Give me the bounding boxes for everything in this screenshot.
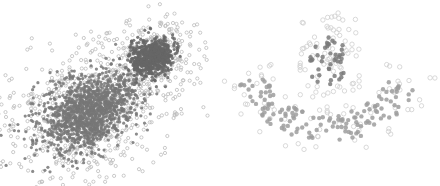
cluster-point: [119, 79, 122, 82]
noise-point: [164, 15, 167, 18]
noise-point: [53, 148, 56, 151]
cluster-point: [87, 125, 90, 128]
cluster-point: [98, 119, 101, 122]
cluster-point: [109, 80, 112, 83]
cluster-point: [44, 109, 47, 112]
cluster-point: [93, 103, 96, 106]
cluster-point: [110, 63, 113, 66]
cluster-point: [134, 68, 137, 71]
cluster-point: [70, 143, 73, 146]
cluster-point: [31, 102, 34, 105]
cluster-point: [136, 72, 139, 75]
cluster-point: [149, 45, 152, 48]
noise-point: [89, 30, 92, 33]
noise-point: [80, 59, 83, 62]
cluster-point: [62, 123, 65, 126]
cluster-point: [339, 71, 343, 75]
noise-point: [321, 93, 325, 97]
noise-point: [353, 17, 357, 21]
cluster-point: [359, 114, 363, 118]
cluster-point: [387, 80, 391, 84]
cluster-point: [310, 75, 314, 79]
noise-point: [9, 135, 12, 138]
noise-point: [357, 47, 361, 51]
cluster-point: [48, 141, 51, 144]
noise-point: [299, 52, 303, 56]
cluster-point: [107, 100, 110, 103]
cluster-point: [90, 146, 93, 149]
cluster-point: [50, 121, 53, 124]
noise-point: [175, 88, 178, 91]
cluster-point: [76, 167, 79, 170]
cluster-point: [87, 114, 90, 117]
cluster-point: [339, 125, 343, 129]
cluster-point: [64, 111, 67, 114]
cluster-point: [334, 56, 338, 60]
cluster-point: [349, 109, 353, 113]
cluster-point: [123, 78, 126, 81]
cluster-point: [84, 75, 87, 78]
cluster-point: [89, 59, 92, 62]
cluster-point: [349, 131, 353, 135]
cluster-point: [154, 37, 157, 40]
cluster-point: [100, 121, 103, 124]
cluster-point: [66, 93, 69, 96]
noise-point: [141, 145, 144, 148]
noise-point: [239, 112, 243, 116]
noise-point: [314, 90, 318, 94]
cluster-point: [271, 112, 275, 116]
cluster-point: [161, 49, 164, 52]
cluster-point: [71, 77, 74, 80]
noise-point: [165, 112, 168, 115]
cluster-point: [264, 90, 268, 94]
noise-point: [131, 157, 134, 160]
cluster-point: [140, 52, 143, 55]
noise-point: [77, 46, 80, 49]
noise-point: [86, 168, 89, 171]
noise-point: [272, 108, 276, 112]
cluster-point: [317, 116, 321, 120]
cluster-point: [35, 148, 38, 151]
cluster-point: [162, 56, 165, 59]
cluster-point: [164, 65, 167, 68]
cluster-point: [91, 101, 94, 104]
noise-point: [298, 93, 302, 97]
noise-point: [188, 79, 191, 82]
cluster-point: [340, 43, 344, 47]
cluster-point: [327, 42, 331, 46]
cluster-point: [129, 60, 132, 63]
cluster-point: [30, 119, 33, 122]
cluster-point: [68, 100, 71, 103]
cluster-point: [140, 73, 143, 76]
cluster-point: [131, 102, 134, 105]
noise-point: [124, 140, 127, 143]
noise-point: [180, 50, 183, 53]
cluster-point: [119, 111, 122, 114]
cluster-point: [115, 105, 118, 108]
cluster-point: [294, 130, 298, 134]
cluster-point: [291, 114, 295, 118]
cluster-point: [55, 147, 58, 150]
noise-point: [196, 77, 199, 80]
cluster-point: [109, 85, 112, 88]
cluster-point: [73, 110, 76, 113]
cluster-point: [146, 56, 149, 59]
cluster-point: [75, 151, 78, 154]
cluster-point: [104, 57, 107, 60]
cluster-point: [158, 46, 161, 49]
noise-point: [271, 77, 275, 81]
cluster-point: [71, 165, 74, 168]
cluster-point: [79, 151, 82, 154]
cluster-point: [51, 134, 54, 137]
cluster-point: [280, 108, 284, 112]
noise-point: [163, 151, 166, 154]
noise-point: [151, 106, 154, 109]
cluster-point: [83, 131, 86, 134]
cluster-point: [125, 124, 128, 127]
cluster-point: [93, 79, 96, 82]
cluster-point: [379, 106, 383, 110]
cluster-point: [148, 87, 151, 90]
cluster-point: [261, 77, 265, 81]
noise-point: [137, 168, 140, 171]
cluster-point: [61, 154, 64, 157]
